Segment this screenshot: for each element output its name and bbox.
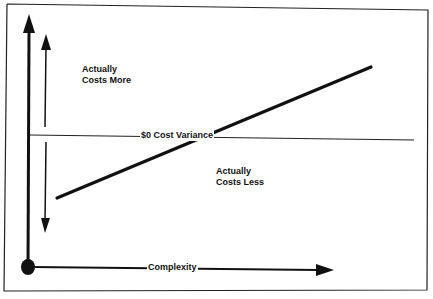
upper-region-label: Actually Costs More <box>82 64 131 86</box>
diagram-canvas <box>0 0 433 299</box>
y-axis-line <box>28 30 29 266</box>
y-axis-arrowhead-icon <box>23 14 35 33</box>
frame-border <box>4 4 428 291</box>
lower-region-label: Actually Costs Less <box>216 166 264 188</box>
lower-region-label-line2: Costs Less <box>216 177 264 188</box>
lower-region-label-line1: Actually <box>216 166 264 177</box>
upper-region-label-line2: Costs More <box>82 75 131 86</box>
variance-down-arrowhead-icon <box>41 218 50 233</box>
variance-down-line <box>45 142 46 222</box>
variance-up-line <box>45 45 46 127</box>
zero-variance-line <box>30 135 414 140</box>
x-axis-arrowhead-icon <box>316 264 334 276</box>
variance-up-arrowhead-icon <box>41 34 51 50</box>
x-axis-label: Complexity <box>147 262 198 273</box>
upper-region-label-line1: Actually <box>82 64 131 75</box>
zero-variance-label: $0 Cost Variance <box>140 130 214 141</box>
